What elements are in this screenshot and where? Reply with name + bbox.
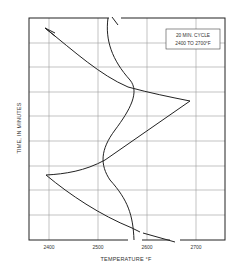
x-axis-label: TEMPERATURE °F	[100, 256, 151, 262]
grid	[29, 18, 225, 240]
legend-box: 20 MIN. CYCLE 2400 TO 2700°F	[166, 29, 220, 49]
y-axis-label: TIME, IN MINUTES	[16, 102, 22, 153]
x-tick-2700: 2700	[190, 244, 201, 250]
legend-line-2: 2400 TO 2700°F	[175, 41, 210, 46]
x-tick-2500: 2500	[92, 244, 103, 250]
x-tick-2600: 2600	[141, 244, 152, 250]
chart: 20 MIN. CYCLE 2400 TO 2700°F 2400 2500 2…	[0, 0, 238, 274]
x-tick-2400: 2400	[43, 244, 54, 250]
series-furnace	[45, 28, 190, 242]
legend-line-1: 20 MIN. CYCLE	[176, 33, 210, 38]
plot-frame	[29, 18, 225, 240]
series-specimen	[103, 18, 134, 240]
